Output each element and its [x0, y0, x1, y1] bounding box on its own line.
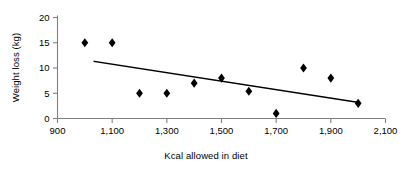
x-tick-label: 1,900 — [319, 125, 343, 136]
trend-line — [94, 61, 358, 102]
data-point-marker — [136, 89, 143, 98]
data-markers-group — [81, 38, 361, 118]
x-tick-label: 2,100 — [374, 125, 398, 136]
data-point-marker — [327, 74, 334, 83]
y-tick-labels-group: 05101520 — [39, 12, 50, 124]
data-point-marker — [300, 63, 307, 72]
y-tick-label: 15 — [39, 37, 50, 48]
plot-area: 9001,1001,3001,5001,7001,9002,100 051015… — [0, 0, 412, 169]
x-tick-label: 1,500 — [210, 125, 234, 136]
data-point-marker — [273, 109, 280, 118]
y-tick-label: 5 — [44, 88, 49, 99]
y-tick-label: 20 — [39, 12, 50, 23]
data-point-marker — [81, 38, 88, 47]
scatter-chart-figure: 9001,1001,3001,5001,7001,9002,100 051015… — [0, 0, 412, 169]
data-point-marker — [163, 89, 170, 98]
x-tick-label: 1,700 — [264, 125, 288, 136]
data-point-marker — [355, 99, 362, 108]
trend-line-group — [94, 61, 358, 102]
x-tick-label: 900 — [50, 125, 66, 136]
x-tick-labels-group: 9001,1001,3001,5001,7001,9002,100 — [50, 125, 398, 136]
axes-group — [58, 16, 386, 119]
data-point-marker — [109, 38, 116, 47]
x-tick-label: 1,100 — [100, 125, 124, 136]
data-point-marker — [245, 87, 252, 96]
x-axis-title: Kcal allowed in diet — [0, 150, 412, 161]
data-point-marker — [191, 79, 198, 88]
y-tick-label: 10 — [39, 62, 50, 73]
y-tick-label: 0 — [44, 113, 49, 124]
tick-marks-group — [53, 18, 386, 124]
y-axis-title: Weight loss (kg) — [10, 8, 21, 128]
x-tick-label: 1,300 — [155, 125, 179, 136]
